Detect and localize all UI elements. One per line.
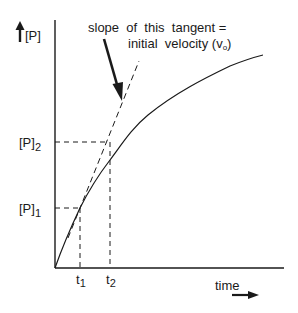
x-axis-label: time xyxy=(215,278,240,293)
y-tick-p2: [P]2 xyxy=(19,135,41,153)
annotation-line-2: initial velocity (vo) xyxy=(128,36,231,52)
product-curve xyxy=(55,55,263,268)
x-tick-t2: t2 xyxy=(106,272,116,289)
annotation-line-1: slope of this tangent = xyxy=(88,20,226,35)
x-tick-t1: t1 xyxy=(76,272,86,289)
y-axis-up-arrow-icon xyxy=(16,21,25,42)
y-tick-p1: [P]1 xyxy=(19,201,41,219)
annotation-pointer-arrow-icon xyxy=(104,39,123,101)
reaction-progress-diagram: [P] [P]2 [P]1 t1 t2 time slope of this t… xyxy=(0,0,298,313)
initial-tangent-line xyxy=(68,61,139,238)
y-axis-label: [P] xyxy=(25,28,41,43)
